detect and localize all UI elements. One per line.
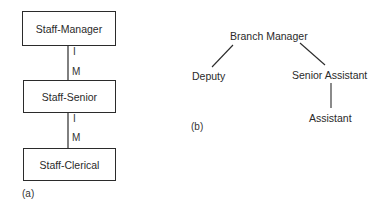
entity-label: Staff-Clerical xyxy=(40,159,100,171)
figure-caption-a: (a) xyxy=(22,189,34,199)
tree-node-branch-manager: Branch Manager xyxy=(230,31,308,42)
entity-box-staff-clerical: Staff-Clerical xyxy=(23,148,116,181)
tree-node-senior-assistant: Senior Assistant xyxy=(292,70,367,81)
figure-caption-b: (b) xyxy=(191,122,203,132)
diagram-canvas: Staff-Manager I M Staff-Senior I M Staff… xyxy=(0,0,385,206)
edge-branchmanager-deputy xyxy=(212,45,233,67)
entity-label: Staff-Senior xyxy=(42,91,97,103)
cardinality-label: I xyxy=(73,47,76,57)
entity-box-staff-manager: Staff-Manager xyxy=(22,11,116,46)
cardinality-label: I xyxy=(73,114,76,124)
cardinality-label: M xyxy=(72,133,80,143)
tree-node-deputy: Deputy xyxy=(192,71,225,82)
cardinality-label: M xyxy=(72,67,80,77)
edge-branchmanager-seniorassistant xyxy=(300,43,325,65)
entity-label: Staff-Manager xyxy=(36,23,102,35)
tree-node-assistant: Assistant xyxy=(309,113,352,124)
entity-box-staff-senior: Staff-Senior xyxy=(23,80,116,113)
